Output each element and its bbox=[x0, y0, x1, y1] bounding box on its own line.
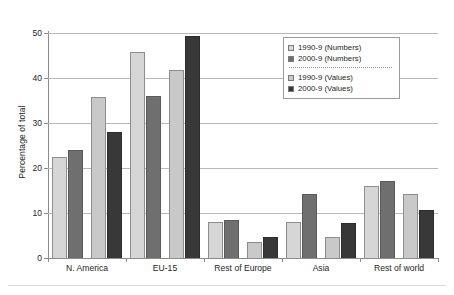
x-axis-label: Rest of Europe bbox=[204, 263, 282, 273]
legend-swatch-icon bbox=[288, 75, 294, 81]
bar bbox=[286, 222, 301, 258]
legend-swatch-icon bbox=[288, 45, 294, 51]
bar bbox=[247, 242, 262, 258]
chart-legend: 1990-9 (Numbers) 2000-9 (Numbers) 1990-9… bbox=[283, 37, 400, 99]
y-tick-label: 50 bbox=[8, 28, 42, 38]
bar bbox=[68, 150, 83, 258]
bar-group bbox=[204, 33, 282, 258]
bar bbox=[52, 157, 67, 258]
bar bbox=[325, 237, 340, 258]
legend-item-2000-9-numbers: 2000-9 (Numbers) bbox=[288, 53, 394, 64]
bar bbox=[185, 36, 200, 258]
legend-label: 1990-9 (Numbers) bbox=[298, 42, 361, 53]
x-tick-mark bbox=[360, 258, 361, 262]
bar bbox=[403, 194, 418, 258]
legend-item-2000-9-values: 2000-9 (Values) bbox=[288, 83, 394, 94]
legend-swatch-icon bbox=[288, 86, 294, 92]
y-tick-label: 40 bbox=[8, 73, 42, 83]
x-axis-label: Asia bbox=[282, 263, 360, 273]
bar bbox=[107, 132, 122, 258]
legend-divider bbox=[289, 67, 392, 69]
bar bbox=[380, 181, 395, 258]
bar bbox=[91, 97, 106, 258]
bar-group bbox=[126, 33, 204, 258]
x-tick-mark bbox=[126, 258, 127, 262]
chart-figure: Percentage of total 01020304050 N. Ameri… bbox=[0, 0, 454, 295]
bar bbox=[208, 222, 223, 258]
bar bbox=[302, 194, 317, 258]
y-tick-label: 20 bbox=[8, 163, 42, 173]
legend-item-1990-9-values: 1990-9 (Values) bbox=[288, 72, 394, 83]
footer-rule bbox=[8, 285, 446, 286]
bar bbox=[419, 210, 434, 258]
bar bbox=[263, 237, 278, 258]
legend-label: 2000-9 (Values) bbox=[298, 83, 353, 94]
x-tick-mark bbox=[438, 258, 439, 262]
legend-item-1990-9-numbers: 1990-9 (Numbers) bbox=[288, 42, 394, 53]
x-tick-mark bbox=[48, 258, 49, 262]
x-tick-mark bbox=[204, 258, 205, 262]
bar bbox=[169, 70, 184, 258]
legend-label: 1990-9 (Values) bbox=[298, 72, 353, 83]
legend-swatch-icon bbox=[288, 56, 294, 62]
bar bbox=[224, 220, 239, 258]
y-tick-label: 0 bbox=[8, 253, 42, 263]
x-axis-label: Rest of world bbox=[360, 263, 438, 273]
x-axis-label: N. America bbox=[48, 263, 126, 273]
y-tick-label: 30 bbox=[8, 118, 42, 128]
bar bbox=[364, 186, 379, 258]
bar bbox=[341, 223, 356, 258]
bar bbox=[130, 52, 145, 258]
bar bbox=[146, 96, 161, 258]
x-axis-labels: N. AmericaEU-15Rest of EuropeAsiaRest of… bbox=[48, 263, 438, 273]
legend-label: 2000-9 (Numbers) bbox=[298, 53, 361, 64]
y-tick-label: 10 bbox=[8, 208, 42, 218]
x-axis-label: EU-15 bbox=[126, 263, 204, 273]
bar-group bbox=[48, 33, 126, 258]
x-tick-mark bbox=[282, 258, 283, 262]
